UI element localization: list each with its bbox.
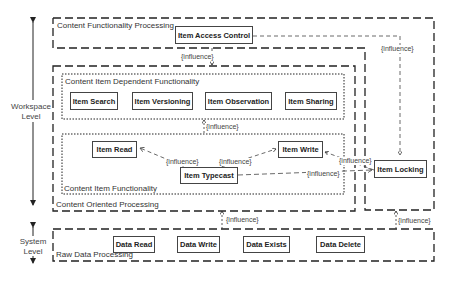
content-item-functionality-label: Content Item Functionality [64, 184, 157, 193]
node-data-write: Data Write [177, 236, 220, 253]
content-functionality-processing-label: Content Functionality Processing [57, 21, 174, 30]
node-item-versioning: Item Versioning [132, 92, 193, 110]
influence-label-typecast-to-write: {influence} [218, 158, 253, 166]
node-item-locking: Item Locking [374, 160, 427, 178]
workspace-level-label: Workspace Level [5, 102, 57, 122]
system-level-line1: System [12, 237, 54, 247]
influence-label-functionality-to-dependent: {influence} [205, 123, 240, 131]
node-item-read: Item Read [92, 141, 137, 158]
content-functionality-processing-border [53, 18, 434, 210]
node-data-read: Data Read [113, 236, 155, 253]
node-item-access-control: Item Access Control [175, 26, 253, 44]
node-data-exists: Data Exists [243, 236, 290, 253]
content-item-dependent-functionality-label: Content Item Dependent Functionality [65, 77, 199, 86]
influence-label-raw-to-oriented: {influence} [225, 216, 260, 224]
node-item-sharing: Item Sharing [285, 92, 337, 110]
influence-label-typecast-to-locking: {influence} [306, 170, 341, 178]
workspace-level-line1: Workspace [5, 102, 57, 112]
node-item-observation: Item Observation [205, 92, 272, 110]
node-item-typecast: Item Typecast [180, 167, 238, 184]
influence-label-access-to-oriented: {influence} [180, 53, 215, 61]
influence-label-access-to-locking: {influence} [380, 45, 415, 53]
node-item-search: Item Search [70, 92, 118, 110]
node-item-write: Item Write [278, 141, 323, 158]
influence-label-raw-to-locking: {influence} [397, 217, 432, 225]
node-data-delete: Data Delete [316, 236, 365, 253]
workspace-level-line2: Level [5, 112, 57, 122]
system-level-line2: Level [12, 247, 54, 257]
system-level-label: System Level [12, 237, 54, 257]
influence-label-typecast-to-read: {influence} [165, 158, 200, 166]
influence-label-locking-to-write: {influence} [338, 157, 373, 165]
content-oriented-processing-label: Content Oriented Processing [56, 200, 159, 209]
